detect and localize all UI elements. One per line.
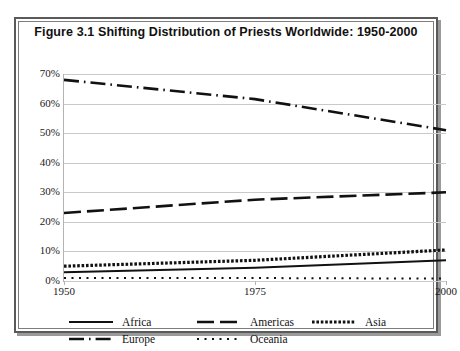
- legend-item-europe[interactable]: Europe: [68, 330, 155, 347]
- plot-area: [64, 74, 446, 281]
- y-tick-label: 10%: [20, 244, 60, 256]
- x-tick-label: 1975: [225, 285, 285, 297]
- x-axis-tick-labels: 195019752000: [16, 285, 460, 301]
- y-tick-label: 20%: [20, 215, 60, 227]
- legend-swatch-africa: [68, 316, 114, 328]
- y-tick-label: 60%: [20, 97, 60, 109]
- series-lines: [64, 74, 446, 281]
- figure-frame: Figure 3.1 Shifting Distribution of Prie…: [14, 17, 438, 333]
- legend-row: EuropeOceania: [68, 330, 408, 347]
- x-tick-mark: [255, 281, 256, 285]
- legend-item-africa[interactable]: Africa: [68, 313, 151, 330]
- x-tick-label: 2000: [416, 285, 460, 297]
- series-line-oceania: [64, 278, 446, 279]
- y-tick-label: 70%: [20, 67, 60, 79]
- legend-swatch-americas: [196, 316, 242, 328]
- legend-swatch-asia: [311, 316, 357, 328]
- x-tick-mark: [446, 281, 447, 285]
- chart-title: Figure 3.1 Shifting Distribution of Prie…: [16, 25, 436, 39]
- series-line-americas: [64, 192, 446, 213]
- y-axis-tick-labels: 0%10%20%30%40%50%60%70%: [16, 74, 60, 281]
- x-tick-label: 1950: [34, 285, 94, 297]
- legend-item-americas[interactable]: Americas: [196, 313, 294, 330]
- series-line-asia: [64, 250, 446, 266]
- x-tick-mark: [64, 281, 65, 285]
- legend-label: Asia: [365, 316, 386, 328]
- y-tick-label: 40%: [20, 156, 60, 168]
- legend-row: AfricaAmericasAsia: [68, 313, 408, 330]
- y-tick-label: 30%: [20, 185, 60, 197]
- legend-item-asia[interactable]: Asia: [311, 313, 386, 330]
- legend-swatch-oceania: [196, 333, 242, 345]
- series-line-africa: [64, 260, 446, 272]
- series-line-europe: [64, 80, 446, 130]
- legend-label: Europe: [122, 333, 155, 345]
- legend-swatch-europe: [68, 333, 114, 345]
- legend-label: Americas: [250, 316, 294, 328]
- y-tick-label: 50%: [20, 126, 60, 138]
- legend-label: Oceania: [250, 333, 288, 345]
- legend-item-oceania[interactable]: Oceania: [196, 330, 288, 347]
- legend-label: Africa: [122, 316, 151, 328]
- chart-legend: AfricaAmericasAsiaEuropeOceania: [68, 313, 408, 347]
